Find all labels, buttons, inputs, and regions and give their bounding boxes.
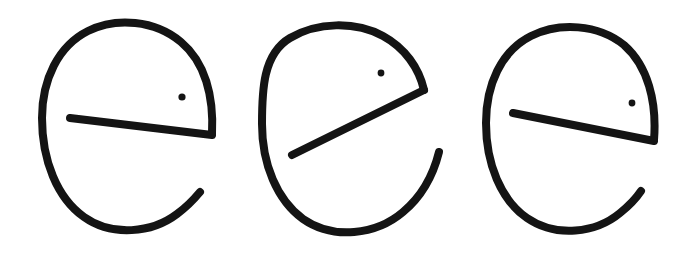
- glyph-1-eye-dot: [178, 93, 185, 100]
- glyph-canvas-svg: [0, 0, 692, 253]
- drawing-canvas: [0, 0, 692, 253]
- glyph-3-eye-dot: [629, 100, 636, 107]
- glyph-2-eye-dot: [378, 70, 385, 77]
